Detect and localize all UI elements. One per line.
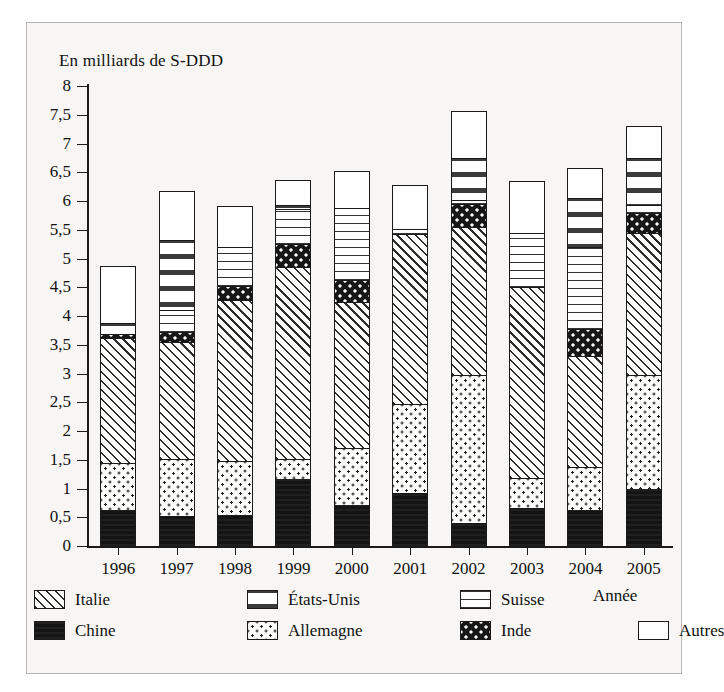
y-tick-label: 3 (27, 365, 71, 382)
bar-segment-chine (627, 489, 661, 547)
y-tick-label: 7 (27, 135, 71, 152)
x-tick-mark (118, 546, 119, 555)
stacked-bar[interactable] (509, 181, 545, 546)
bar-segment-allemagne (101, 463, 135, 510)
y-tick-label: 4 (27, 307, 71, 324)
bar-segment-italie (452, 227, 486, 375)
stacked-bar[interactable] (567, 168, 603, 546)
legend-label-allemagne: Allemagne (288, 622, 363, 639)
y-tick-label: 4,5 (27, 278, 71, 295)
x-tick-label: 1998 (205, 559, 265, 579)
y-tick-mark (77, 431, 87, 432)
bar-segment-italie (393, 234, 427, 404)
bar-segment-etatsunis (452, 158, 486, 200)
bar-segment-chine (276, 479, 310, 546)
y-tick-mark (77, 546, 87, 547)
bar-segment-italie (276, 267, 310, 458)
stacked-bar[interactable] (626, 126, 662, 546)
x-tick-mark (410, 546, 411, 555)
legend-item-etatsunis[interactable]: États-Unis (247, 584, 360, 615)
bar-segment-autres (510, 181, 544, 233)
chart-figure: En milliards de S-DDD 00,511,522,533,544… (26, 22, 682, 674)
x-tick-mark (527, 546, 528, 555)
y-tick-mark (77, 115, 87, 116)
bar-segment-allemagne (218, 461, 252, 514)
solid-black-swatch-icon (34, 621, 65, 640)
bar-segment-italie (218, 300, 252, 461)
legend-item-chine[interactable]: Chine (34, 615, 116, 646)
legend-label-autres: Autres (679, 622, 724, 639)
bar-segment-inde (452, 204, 486, 227)
y-tick-mark (77, 259, 87, 260)
bar-segment-italie (101, 338, 135, 463)
x-tick-mark (293, 546, 294, 555)
bar-segment-italie (510, 287, 544, 478)
bar-segment-chine (335, 505, 369, 546)
bar-segment-allemagne (568, 467, 602, 511)
bar-segment-suisse (218, 247, 252, 286)
bar-segment-chine (393, 493, 427, 546)
y-tick-label: 3,5 (27, 336, 71, 353)
bar-segment-chine (160, 516, 194, 546)
legend-item-suisse[interactable]: Suisse (460, 584, 544, 615)
sparse-dashes-swatch-icon (247, 590, 278, 609)
y-axis-line (87, 84, 89, 548)
bar-segment-autres (393, 185, 427, 229)
legend-label-suisse: Suisse (501, 591, 544, 608)
bar-segment-autres (568, 168, 602, 198)
bar-segment-etatsunis (627, 158, 661, 205)
bar-segment-suisse (568, 247, 602, 329)
stacked-bar[interactable] (275, 180, 311, 546)
bar-segment-allemagne (627, 375, 661, 488)
stacked-bar[interactable] (159, 191, 195, 546)
bar-segment-suisse (335, 208, 369, 280)
legend-item-inde[interactable]: Inde (460, 615, 531, 646)
bar-segment-suisse (452, 200, 486, 204)
bar-segment-suisse (393, 229, 427, 234)
bar-segment-inde (627, 213, 661, 233)
bar-segment-autres (452, 111, 486, 158)
black-with-white-dots-swatch-icon (460, 621, 491, 640)
y-tick-mark (77, 460, 87, 461)
bar-segment-allemagne (393, 404, 427, 493)
y-tick-label: 6 (27, 192, 71, 209)
y-tick-mark (77, 201, 87, 202)
x-tick-mark (469, 546, 470, 555)
x-tick-label: 1999 (263, 559, 323, 579)
bar-segment-allemagne (335, 448, 369, 504)
bar-segment-inde (218, 286, 252, 300)
horizontal-lines-swatch-icon (460, 590, 491, 609)
bar-segment-italie (160, 342, 194, 459)
x-tick-label: 2000 (322, 559, 382, 579)
legend-label-etatsunis: États-Unis (288, 591, 360, 608)
y-tick-label: 5 (27, 250, 71, 267)
y-tick-mark (77, 172, 87, 173)
y-tick-mark (77, 86, 87, 87)
bar-segment-allemagne (510, 478, 544, 508)
y-tick-label: 6,5 (27, 163, 71, 180)
y-tick-label: 5,5 (27, 221, 71, 238)
cut-off-title (0, 0, 708, 18)
chart-legend: ItalieÉtats-UnisSuisse ChineAllemagneInd… (34, 584, 634, 646)
y-tick-mark (77, 230, 87, 231)
bar-segment-autres (101, 266, 135, 324)
bar-segment-inde (335, 280, 369, 301)
y-tick-mark (77, 517, 87, 518)
stacked-bar[interactable] (100, 266, 136, 546)
bar-segment-autres (335, 171, 369, 208)
legend-item-autres[interactable]: Autres (638, 615, 724, 646)
stacked-bar[interactable] (392, 185, 428, 546)
y-tick-mark (77, 316, 87, 317)
stacked-bar[interactable] (451, 111, 487, 546)
x-tick-mark (352, 546, 353, 555)
y-tick-label: 1,5 (27, 451, 71, 468)
bar-segment-autres (276, 180, 310, 205)
legend-item-allemagne[interactable]: Allemagne (247, 615, 363, 646)
stacked-bar[interactable] (217, 206, 253, 546)
bar-segment-chine (452, 523, 486, 546)
bar-segment-chine (101, 510, 135, 546)
legend-item-italie[interactable]: Italie (34, 584, 110, 615)
y-tick-mark (77, 144, 87, 145)
x-tick-mark (644, 546, 645, 555)
stacked-bar[interactable] (334, 171, 370, 546)
